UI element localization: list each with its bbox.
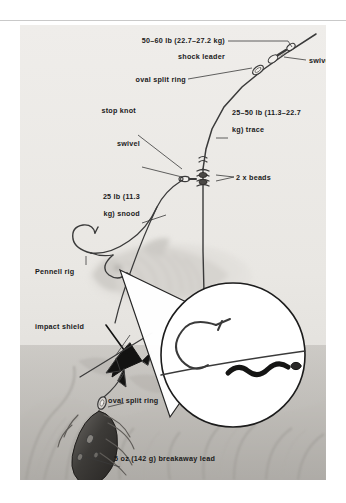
top-divider-rule bbox=[0, 20, 346, 21]
illustration-plate: 50–60 lb (22.7–27.2 kg) shock leader swi… bbox=[20, 25, 326, 480]
label-swivel-top: swivel bbox=[309, 55, 326, 66]
bead-lower bbox=[199, 179, 207, 184]
label-oval-split-ring-top: oval split ring bbox=[20, 74, 186, 85]
bead-upper bbox=[199, 172, 207, 177]
label-oval-split-ring-bottom: oval split ring bbox=[108, 395, 158, 406]
label-impact-shield: impact shield bbox=[35, 321, 84, 332]
label-snood-spec-line1: 25 lb (11.3 bbox=[20, 191, 140, 202]
label-swivel-mid: swivel bbox=[20, 138, 140, 149]
rig-illustration bbox=[20, 25, 326, 480]
label-snood-spec-line2: kg) snood bbox=[20, 208, 140, 219]
label-stop-knot: stop knot bbox=[20, 105, 136, 116]
label-breakaway-lead: 5 oz (142 g) breakaway lead bbox=[114, 453, 215, 464]
label-pennell-rig: Pennell rig bbox=[35, 266, 75, 277]
label-shock-leader: shock leader bbox=[20, 51, 225, 62]
figure-page: 50–60 lb (22.7–27.2 kg) shock leader swi… bbox=[0, 0, 346, 503]
inset-lens-circle bbox=[161, 283, 305, 427]
label-trace-spec-line2: kg) trace bbox=[232, 124, 264, 135]
label-shock-leader-spec: 50–60 lb (22.7–27.2 kg) bbox=[20, 35, 225, 46]
label-trace-spec-line1: 25–50 lb (11.3–22.7 bbox=[232, 107, 301, 118]
label-beads: 2 x beads bbox=[236, 172, 271, 183]
